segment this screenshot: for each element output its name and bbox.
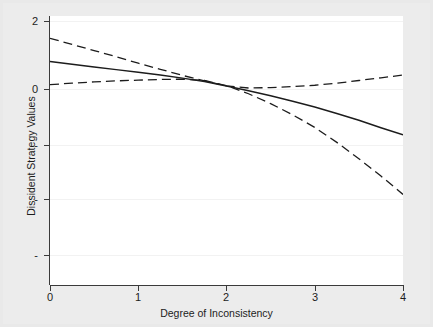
- plot-area: [50, 16, 403, 285]
- y-axis-tick: [44, 21, 50, 22]
- curves-svg: [50, 16, 403, 285]
- y-axis-line: [49, 16, 50, 285]
- y-axis-tick: [44, 199, 50, 200]
- x-axis-line: [50, 285, 404, 286]
- x-axis-title: Degree of Inconsistency: [0, 307, 433, 319]
- x-axis-tick-label: 4: [393, 292, 413, 303]
- figure-container: 2 0 - - - 0 1 2 3 4 Degree of Inconsiste…: [0, 0, 433, 327]
- y-axis-title: Dissident Strategy Values: [25, 56, 37, 256]
- lower-confidence-band: [50, 79, 403, 194]
- x-axis-tick-label: 3: [305, 292, 325, 303]
- x-axis-tick-label: 2: [216, 292, 236, 303]
- y-axis-tick-label: 2: [12, 16, 38, 27]
- y-axis-tick: [44, 89, 50, 90]
- upper-confidence-band: [50, 38, 403, 88]
- y-axis-tick: [44, 145, 50, 146]
- x-axis-tick-label: 0: [40, 292, 60, 303]
- x-axis-tick-label: 1: [128, 292, 148, 303]
- predicted-value-line: [50, 61, 403, 134]
- y-axis-tick: [44, 255, 50, 256]
